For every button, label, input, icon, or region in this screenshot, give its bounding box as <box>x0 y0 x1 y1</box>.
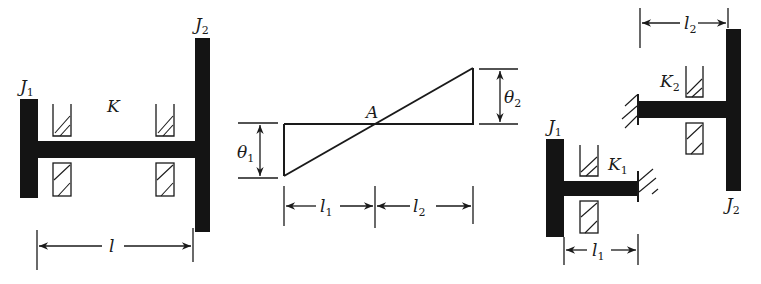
label-l1: l1 <box>592 240 604 263</box>
label-j2: J2 <box>723 194 740 217</box>
label-theta2: θ2 <box>504 87 521 110</box>
dimension-theta2: θ2 <box>479 69 521 124</box>
disk-j2 <box>726 29 741 191</box>
fixed-support-k2 <box>622 94 638 128</box>
figure-2-mode-shape: A θ1 θ2 l1 l2 <box>237 68 521 228</box>
label-j2: J2 <box>192 14 209 37</box>
torsional-vibration-diagram: l J1 J2 K A θ1 θ2 <box>0 0 761 284</box>
label-l2: l2 <box>413 196 425 219</box>
disk-j2 <box>195 38 210 232</box>
label-l2: l2 <box>684 13 696 36</box>
disk-j1 <box>20 99 38 198</box>
label-l: l <box>109 236 114 256</box>
label-theta1: θ1 <box>237 142 254 165</box>
dimension-l: l <box>37 228 193 270</box>
label-node-a: A <box>364 102 378 122</box>
label-k: K <box>106 96 121 116</box>
fixed-support-k1 <box>638 169 658 202</box>
mode-line <box>284 68 473 176</box>
shaft-k2 <box>639 101 726 118</box>
shaft <box>38 141 195 158</box>
label-k1: K1 <box>607 154 628 177</box>
label-j1: J1 <box>545 116 562 139</box>
label-k2: K2 <box>659 71 680 94</box>
label-l1: l1 <box>320 196 332 219</box>
shaft-k1 <box>564 181 638 196</box>
dimension-l1-l2: l1 l2 <box>284 186 473 228</box>
disk-j1 <box>546 139 564 237</box>
dimension-l1: l1 <box>564 234 638 265</box>
figure-1-two-disk-shaft: l J1 J2 K <box>17 14 210 270</box>
dimension-theta1: θ1 <box>237 123 278 178</box>
label-j1: J1 <box>17 76 34 99</box>
figure-3-equivalent-system: K2 J2 l2 J1 K1 <box>545 8 741 265</box>
dimension-l2: l2 <box>640 8 728 48</box>
